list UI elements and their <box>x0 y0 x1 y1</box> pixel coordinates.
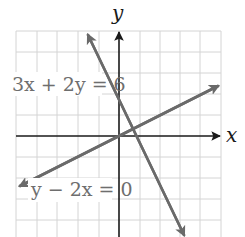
equation-label-1: 3x + 2y = 6 <box>12 73 126 95</box>
coordinate-graph: 3x + 2y = 6 y − 2x = 0 y x <box>0 0 245 237</box>
y-axis-label: y <box>111 1 124 25</box>
line-3x-plus-2y-arrow-bottom <box>88 35 184 235</box>
x-axis-label: x <box>226 123 237 147</box>
equation-label-2: y − 2x = 0 <box>30 178 133 200</box>
